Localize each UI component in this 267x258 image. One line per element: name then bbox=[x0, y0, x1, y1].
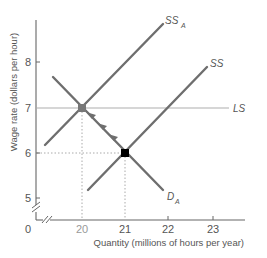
ls-label: LS bbox=[233, 103, 246, 114]
labor-market-chart: 8 7 6 5 0 20 21 22 23 Quantity (millions… bbox=[0, 0, 267, 258]
ss-curve bbox=[88, 67, 207, 190]
x-ticks bbox=[168, 216, 213, 220]
ssa-label-subscript: A bbox=[180, 22, 186, 29]
x-axis-title: Quantity (millions of hours per year) bbox=[94, 237, 244, 248]
y-tick-label-6: 6 bbox=[25, 147, 31, 159]
x-tick-label-20: 20 bbox=[76, 223, 88, 235]
equilibrium-point-new bbox=[78, 104, 86, 112]
x-tick-label-22: 22 bbox=[162, 223, 174, 235]
ssa-label: SS bbox=[165, 15, 179, 26]
axes bbox=[36, 20, 245, 220]
da-curve bbox=[53, 77, 163, 190]
y-tick-label-8: 8 bbox=[25, 56, 31, 68]
da-label-subscript: A bbox=[174, 198, 180, 205]
adjustment-arrows bbox=[86, 112, 118, 141]
y-axis-title: Wage rate (dollars per hour) bbox=[8, 33, 19, 151]
y-tick-label-7: 7 bbox=[25, 102, 31, 114]
ss-label: SS bbox=[210, 58, 224, 69]
da-label: D bbox=[167, 191, 174, 202]
y-ticks bbox=[36, 62, 40, 198]
x-tick-label-23: 23 bbox=[207, 223, 219, 235]
y-tick-label-5: 5 bbox=[25, 192, 31, 204]
origin-label: 0 bbox=[25, 223, 31, 235]
x-tick-label-21: 21 bbox=[119, 223, 131, 235]
guide-lines bbox=[37, 108, 125, 219]
equilibrium-point-initial bbox=[121, 149, 129, 157]
